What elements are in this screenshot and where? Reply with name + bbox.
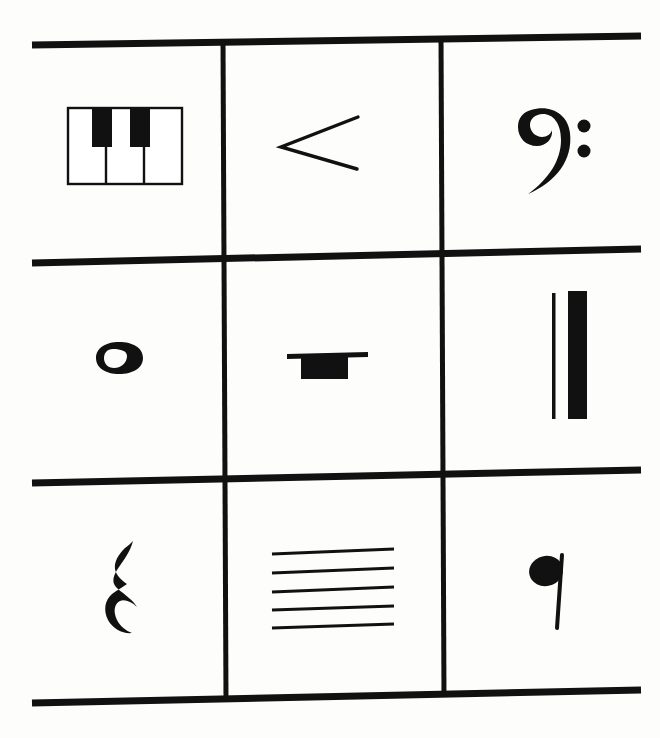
cell-r3c2-staff[interactable] (226, 479, 440, 697)
cell-r1c1-piano-keyboard[interactable] (34, 45, 222, 259)
worksheet-page (0, 0, 660, 738)
cell-r1c3-bass-clef[interactable] (445, 40, 640, 254)
column-divider-right (441, 38, 444, 697)
cell-r3c1-quarter-rest[interactable] (34, 483, 222, 701)
cell-r3c3-quarter-note[interactable] (445, 475, 640, 693)
cell-r2c2-whole-rest[interactable] (226, 259, 440, 477)
cell-r2c1-whole-note[interactable] (34, 263, 222, 481)
cell-r1c2-crescendo[interactable] (226, 43, 440, 257)
cell-r2c3-final-barline[interactable] (445, 255, 640, 473)
